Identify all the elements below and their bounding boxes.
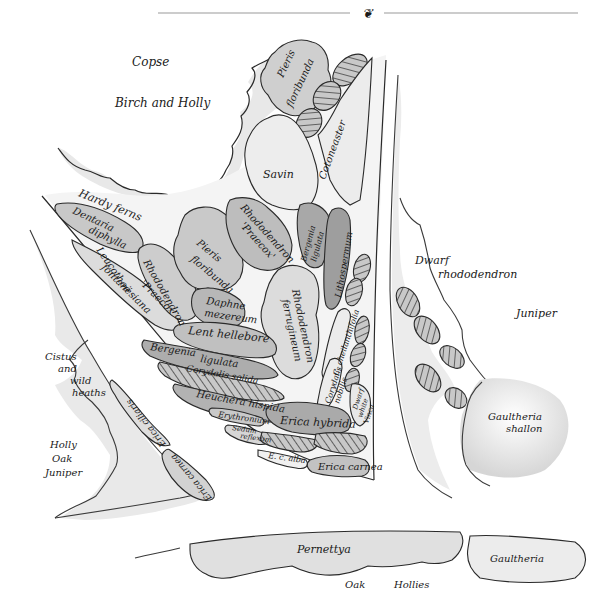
garden-planting-plan: ❦: [0, 0, 610, 616]
label-holly-1: Holly: [49, 439, 77, 450]
label-gaultheria-shallon-1: Gaultheria: [488, 411, 542, 422]
label-cistus-2: and: [58, 363, 77, 374]
label-holly-3: Juniper: [43, 467, 83, 478]
label-dwarf-2: rhododendron: [438, 268, 517, 281]
label-cistus-3: wild: [70, 375, 91, 386]
label-holly-2: Oak: [52, 453, 72, 464]
label-birch-holly: Birch and Holly: [114, 96, 210, 110]
label-erica-carnea-right: Erica carnea: [317, 461, 383, 472]
label-savin: Savin: [263, 168, 294, 181]
label-hollies: Hollies: [393, 579, 429, 590]
ornament-icon: ❦: [362, 6, 374, 21]
label-gaultheria-shallon-2: shallon: [506, 423, 542, 434]
label-copse: Copse: [132, 55, 169, 69]
header-rule: ❦: [158, 6, 578, 21]
label-oak: Oak: [345, 579, 365, 590]
label-gaultheria: Gaultheria: [490, 553, 544, 564]
label-dwarf-1: Dwarf: [414, 254, 451, 267]
label-cistus-4: heaths: [72, 387, 106, 398]
label-pernettya: Pernettya: [296, 543, 351, 556]
label-cistus-1: Cistus: [45, 351, 77, 362]
label-juniper: Juniper: [514, 307, 558, 320]
